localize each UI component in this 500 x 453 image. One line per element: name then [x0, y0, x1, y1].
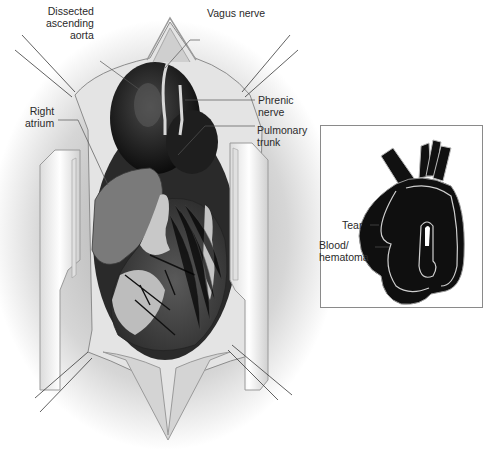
surgical-illustration: Dissected ascending aorta Vagus nerve Ph…: [0, 0, 500, 453]
label-tear: Tear: [342, 219, 362, 231]
aorta-highlight: [134, 83, 162, 127]
label-vagus-nerve: Vagus nerve: [207, 7, 265, 19]
retractor-left-blade: [72, 158, 76, 278]
aorta-dissection-drawing: [321, 126, 484, 309]
phrenic-nerve: [180, 85, 182, 135]
inset-dissected-aorta: Tear Blood/ hematoma: [320, 125, 483, 308]
label-right-atrium: Right atrium: [25, 105, 54, 129]
label-phrenic-nerve: Phrenic nerve: [258, 94, 294, 118]
label-dissected-aorta: Dissected ascending aorta: [46, 5, 94, 41]
retractor-right-blade: [233, 148, 238, 280]
pulmonary-trunk: [166, 110, 218, 174]
dissected-aorta-inset: [359, 178, 464, 304]
label-pulmonary-trunk: Pulmonary trunk: [257, 124, 307, 148]
label-hematoma: Blood/ hematoma: [319, 239, 369, 263]
